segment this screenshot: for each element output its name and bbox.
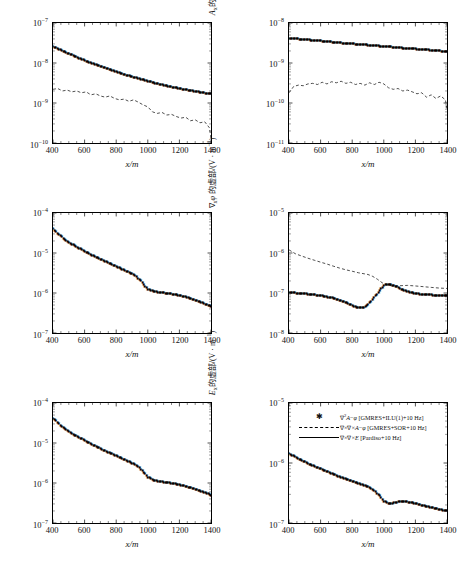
x-tick-label: 1200 xyxy=(172,336,189,345)
plot-area: ✱✱✱✱✱✱✱✱✱✱✱✱✱✱✱✱✱✱✱✱✱✱✱✱✱✱✱✱✱✱✱✱✱✱✱✱✱✱✱✱… xyxy=(288,22,448,144)
x-tick-label: 600 xyxy=(78,526,91,535)
x-tick-label: 1200 xyxy=(172,146,189,155)
x-tick-label: 1000 xyxy=(376,336,393,345)
legend-item: ∇×∇×A−φ [GMRES+SOR+10 Hz] xyxy=(298,423,448,432)
y-tick-label: 10−6 xyxy=(33,478,48,488)
y-tick-label: 10−5 xyxy=(33,437,48,447)
x-tick-label: 600 xyxy=(314,336,327,345)
x-axis-title: x/m xyxy=(52,539,212,549)
x-axis-ticks: 400600800100012001400 xyxy=(52,146,212,160)
panel-gradphi-imag: ∇xφ 的虚部/(V · m−1) 10−510−610−710−8 ✱✱✱✱✱… xyxy=(236,190,471,380)
x-tick-label: 1200 xyxy=(408,526,425,535)
x-tick-label: 800 xyxy=(346,336,359,345)
y-axis-ticks: 10−410−510−610−7 xyxy=(14,212,48,334)
x-tick-label: 400 xyxy=(46,146,59,155)
panel-ax-real: Ax的实部/(V · m−1) 10−710−810−910−10 ✱✱✱✱✱✱… xyxy=(0,0,235,190)
svg-text:✱: ✱ xyxy=(445,293,447,298)
x-tick-label: 800 xyxy=(346,526,359,535)
svg-text:✱: ✱ xyxy=(445,49,447,54)
x-tick-label: 1200 xyxy=(408,336,425,345)
y-tick-label: 10−4 xyxy=(33,207,48,217)
legend-label: ∇×∇×A−φ [GMRES+SOR+10 Hz] xyxy=(340,423,448,432)
x-axis-title: x/m xyxy=(288,539,448,549)
panel-ex-real: Ex的实部/(V · m−1) 10−410−510−610−7 ✱✱✱✱✱✱✱… xyxy=(0,380,235,570)
plot-svg: ✱✱✱✱✱✱✱✱✱✱✱✱✱✱✱✱✱✱✱✱✱✱✱✱✱✱✱✱✱✱✱✱✱✱✱✱✱✱✱✱… xyxy=(289,213,447,333)
x-tick-label: 600 xyxy=(314,146,327,155)
legend-dashed-line-icon xyxy=(298,427,340,428)
plot-svg: ✱✱✱✱✱✱✱✱✱✱✱✱✱✱✱✱✱✱✱✱✱✱✱✱✱✱✱✱✱✱✱✱✱✱✱✱✱✱✱✱… xyxy=(289,23,447,143)
y-tick-label: 10−5 xyxy=(269,207,284,217)
y-tick-label: 10−7 xyxy=(33,17,48,27)
y-tick-label: 10−4 xyxy=(33,397,48,407)
x-tick-label: 400 xyxy=(46,526,59,535)
x-tick-label: 600 xyxy=(78,146,91,155)
y-tick-label: 10−10 xyxy=(266,98,284,108)
x-tick-label: 600 xyxy=(314,526,327,535)
y-tick-label: 10−8 xyxy=(33,57,48,67)
figure-root: Ax的实部/(V · m−1) 10−710−810−910−10 ✱✱✱✱✱✱… xyxy=(0,0,471,570)
x-tick-label: 600 xyxy=(78,336,91,345)
panel-ax-imag: Ax的虚部/(V · m−1) 10−810−910−1010−11 ✱✱✱✱✱… xyxy=(236,0,471,190)
y-tick-label: 10−5 xyxy=(269,397,284,407)
x-axis-title: x/m xyxy=(52,349,212,359)
legend: ✱∇2A−φ [GMRES+ILU(1)+10 Hz]∇×∇×A−φ [GMRE… xyxy=(298,412,448,444)
svg-text:✱: ✱ xyxy=(445,508,447,513)
x-axis-ticks: 400600800100012001400 xyxy=(52,336,212,350)
y-tick-label: 10−7 xyxy=(269,288,284,298)
plot-area: ✱✱✱✱✱✱✱✱✱✱✱✱✱✱✱✱✱✱✱✱✱✱✱✱✱✱✱✱✱✱✱✱✱✱✱✱✱✱✱✱… xyxy=(52,22,212,144)
y-axis-title: Ax的虚部/(V · m−1) xyxy=(202,0,216,44)
x-axis-title: x/m xyxy=(288,349,448,359)
x-tick-label: 400 xyxy=(46,336,59,345)
legend-item: ✱∇2A−φ [GMRES+ILU(1)+10 Hz] xyxy=(298,412,448,421)
x-tick-label: 1000 xyxy=(140,526,157,535)
panel-ex-imag: Ex的虚部/(V · m−1) 10−510−610−7 ✱✱✱✱✱✱✱✱✱✱✱… xyxy=(236,380,471,570)
y-tick-label: 10−6 xyxy=(269,458,284,468)
y-tick-label: 10−5 xyxy=(33,247,48,257)
y-tick-label: 10−9 xyxy=(33,98,48,108)
y-axis-title: Ex的虚部/(V · m−1) xyxy=(202,302,216,424)
x-tick-label: 1000 xyxy=(376,526,393,535)
plot-area: ✱✱✱✱✱✱✱✱✱✱✱✱✱✱✱✱✱✱✱✱✱✱✱✱✱✱✱✱✱✱✱✱✱✱✱✱✱✱✱✱… xyxy=(52,212,212,334)
y-axis-ticks: 10−710−810−910−10 xyxy=(14,22,48,144)
x-axis-title: x/m xyxy=(52,159,212,169)
y-axis-ticks: 10−510−610−710−8 xyxy=(250,212,284,334)
legend-label: ∇×∇×E [Pardiso+10 Hz] xyxy=(340,433,448,442)
x-tick-label: 1200 xyxy=(408,146,425,155)
plot-svg: ✱✱✱✱✱✱✱✱✱✱✱✱✱✱✱✱✱✱✱✱✱✱✱✱✱✱✱✱✱✱✱✱✱✱✱✱✱✱✱✱… xyxy=(53,403,211,523)
y-tick-label: 10−9 xyxy=(269,57,284,67)
x-axis-ticks: 400600800100012001400 xyxy=(288,146,448,160)
x-tick-label: 1200 xyxy=(172,526,189,535)
x-axis-ticks: 400600800100012001400 xyxy=(288,526,448,540)
svg-text:✱: ✱ xyxy=(209,91,211,96)
panel-gradphi-real: ∇xφ 的实部/(V · m−1) 10−410−510−610−7 ✱✱✱✱✱… xyxy=(0,190,235,380)
x-tick-label: 400 xyxy=(282,336,295,345)
legend-solid-line-icon xyxy=(298,437,340,438)
x-tick-label: 800 xyxy=(346,146,359,155)
legend-label: ∇2A−φ [GMRES+ILU(1)+10 Hz] xyxy=(340,411,448,422)
y-tick-label: 10−8 xyxy=(269,17,284,27)
x-tick-label: 1400 xyxy=(440,146,457,155)
y-axis-ticks: 10−410−510−610−7 xyxy=(14,402,48,524)
x-axis-ticks: 400600800100012001400 xyxy=(288,336,448,350)
y-tick-label: 10−6 xyxy=(269,247,284,257)
x-tick-label: 1000 xyxy=(376,146,393,155)
x-tick-label: 800 xyxy=(110,146,123,155)
legend-item: ∇×∇×E [Pardiso+10 Hz] xyxy=(298,433,448,442)
y-axis-ticks: 10−510−610−7 xyxy=(250,402,284,524)
plot-svg: ✱✱✱✱✱✱✱✱✱✱✱✱✱✱✱✱✱✱✱✱✱✱✱✱✱✱✱✱✱✱✱✱✱✱✱✱✱✱✱✱… xyxy=(53,213,211,333)
x-axis-title: x/m xyxy=(288,159,448,169)
x-tick-label: 400 xyxy=(282,146,295,155)
legend-star-marker-icon: ✱ xyxy=(298,414,340,420)
y-axis-title: ∇xφ 的虚部/(V · m−1) xyxy=(202,112,216,234)
x-tick-label: 800 xyxy=(110,526,123,535)
y-axis-ticks: 10−810−910−1010−11 xyxy=(250,22,284,144)
plot-area: ✱✱✱✱✱✱✱✱✱✱✱✱✱✱✱✱✱✱✱✱✱✱✱✱✱✱✱✱✱✱✱✱✱✱✱✱✱✱✱✱… xyxy=(52,402,212,524)
x-axis-ticks: 400600800100012001400 xyxy=(52,526,212,540)
x-tick-label: 800 xyxy=(110,336,123,345)
y-tick-label: 10−6 xyxy=(33,288,48,298)
x-tick-label: 1000 xyxy=(140,146,157,155)
x-tick-label: 400 xyxy=(282,526,295,535)
x-tick-label: 1400 xyxy=(440,336,457,345)
plot-area: ✱✱✱✱✱✱✱✱✱✱✱✱✱✱✱✱✱✱✱✱✱✱✱✱✱✱✱✱✱✱✱✱✱✱✱✱✱✱✱✱… xyxy=(288,212,448,334)
x-tick-label: 1400 xyxy=(440,526,457,535)
